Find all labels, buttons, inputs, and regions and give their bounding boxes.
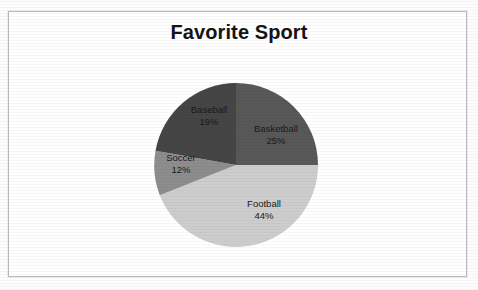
pie-label-basketball-value: 25%	[238, 135, 314, 147]
pie-label-football-name: Football	[247, 198, 281, 209]
pie-label-basketball-name: Basketball	[254, 123, 298, 134]
pie-label-soccer-name: Soccer	[166, 152, 196, 163]
pie-label-baseball-name: Baseball	[191, 104, 227, 115]
pie-label-football-value: 44%	[228, 210, 300, 222]
pie-label-soccer-value: 12%	[152, 164, 210, 176]
pie-label-soccer: Soccer 12%	[152, 152, 210, 176]
pie-label-basketball: Basketball 25%	[238, 123, 314, 147]
pie-label-football: Football 44%	[228, 198, 300, 222]
pie-label-baseball-value: 19%	[178, 116, 240, 128]
pie-label-baseball: Baseball 19%	[178, 104, 240, 128]
page-title: Favorite Sport	[0, 21, 478, 44]
